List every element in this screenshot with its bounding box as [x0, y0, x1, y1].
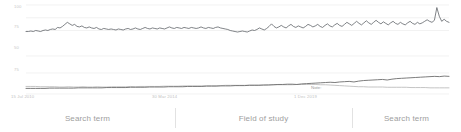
top-chart-plot — [0, 2, 461, 60]
legend-item-search-term-left[interactable]: Search term — [0, 104, 175, 132]
legend-item-search-term-right[interactable]: Search term — [352, 104, 461, 132]
y-axis-tick-label: 50 — [14, 45, 19, 50]
x-axis-tick-label: 15 Jul 2010 — [11, 94, 34, 100]
legend-item-field-of-study[interactable]: Field of study — [175, 104, 352, 132]
note-annotation-label: Note: — [311, 85, 322, 91]
x-axis-tick-label: 1 Dec 2019 — [294, 94, 317, 100]
legend-item-label: Field of study — [239, 114, 289, 123]
legend-item-label: Search term — [384, 114, 429, 123]
y-axis-tick-label: 75 — [14, 67, 19, 72]
legend-item-label: Search term — [65, 114, 110, 123]
y-axis-tick-label: 75 — [14, 24, 19, 29]
y-axis-tick-label: 100 — [14, 4, 22, 9]
legend-divider — [175, 108, 176, 128]
charts-container: 100 75 50 75 Note: 15 Jul 2010 30 Mar 20… — [0, 0, 461, 100]
trends-comparison-widget: 100 75 50 75 Note: 15 Jul 2010 30 Mar 20… — [0, 0, 461, 132]
x-axis: 15 Jul 2010 30 Mar 2014 1 Dec 2019 — [0, 94, 461, 104]
legend-bar: Search term Field of study Search term — [0, 104, 461, 132]
chart-panel-top — [0, 2, 461, 60]
x-axis-tick-label: 30 Mar 2014 — [152, 94, 177, 100]
legend-divider — [352, 108, 353, 128]
